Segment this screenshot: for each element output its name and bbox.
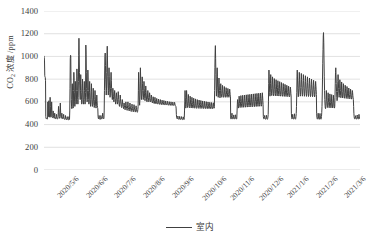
plot-area: [44, 11, 360, 170]
legend-swatch-indoor: [166, 227, 192, 228]
y-axis-tick-label: 600: [14, 97, 38, 106]
co2-concentration-line-chart: CO2 浓度 /ppm 1400120010008006004002000 20…: [0, 0, 380, 241]
y-axis-tick-label: 1200: [14, 29, 38, 38]
x-axis-tick-label: 2020/7/6: [113, 175, 138, 200]
x-axis-tick-label: 2020/10/6: [201, 175, 228, 202]
x-axis-tick-label: 2021/3/6: [343, 175, 368, 200]
y-axis-tick-label: 0: [14, 166, 38, 175]
x-axis-tick-label: 2021/1/6: [286, 175, 311, 200]
x-axis-tick-label: 2020/5/6: [56, 175, 81, 200]
y-axis-tick-label: 1000: [14, 52, 38, 61]
y-axis-tick-label: 400: [14, 120, 38, 129]
y-axis-tick-labels: 1400120010008006004002000: [14, 0, 38, 241]
x-axis-tick-label: 2020/6/6: [85, 175, 110, 200]
x-axis-tick-label: 2020/9/6: [171, 175, 196, 200]
data-series-layer: [44, 11, 360, 170]
legend-label-indoor: 室内: [196, 223, 214, 232]
x-axis-tick-label: 2020/11/6: [229, 175, 256, 202]
series-line-indoor: [44, 33, 360, 120]
y-axis-tick-label: 200: [14, 143, 38, 152]
x-axis-tick-label: 2020/8/6: [142, 175, 167, 200]
y-axis-tick-label: 800: [14, 75, 38, 84]
x-axis-tick-label: 2020/12/6: [258, 175, 285, 202]
legend: 室内: [0, 223, 380, 232]
x-axis-tick-label: 2021/2/6: [314, 175, 339, 200]
y-axis-tick-label: 1400: [14, 7, 38, 16]
